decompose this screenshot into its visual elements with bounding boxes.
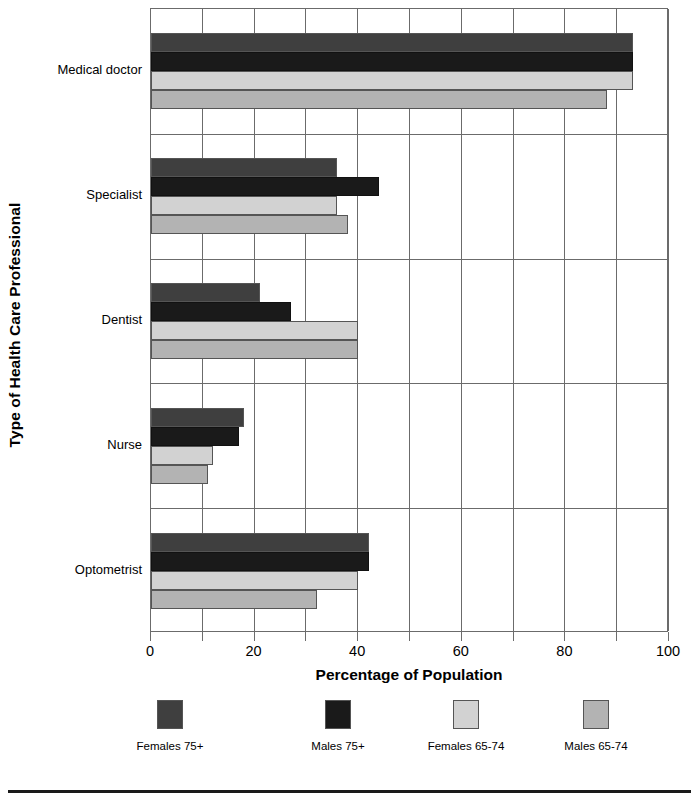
x-axis-tick [357,632,358,641]
legend-label: Females 65-74 [428,740,505,752]
bar [151,283,260,302]
y-axis-tick-label: Nurse [8,438,150,452]
legend-swatch [453,700,479,729]
bar [151,90,607,109]
x-axis-title: Percentage of Population [150,666,668,684]
bar-group [151,259,667,384]
bar [151,158,337,177]
legend-swatch [325,700,351,729]
bar [151,302,291,321]
bar [151,33,633,52]
x-axis-tick-label: 60 [453,643,469,659]
x-axis-tick [564,632,565,641]
bar [151,215,348,234]
legend-swatch [583,700,609,729]
x-axis-tick-label: 100 [656,643,680,659]
x-axis-tick [668,632,669,641]
chart-legend: Females 75+Males 75+Females 65-74Males 6… [0,700,697,780]
bar [151,571,358,590]
x-axis-tick [202,632,203,641]
bar [151,446,213,465]
bar [151,321,358,340]
legend-label: Males 75+ [311,740,364,752]
y-axis-tick-label: Specialist [8,188,150,202]
y-axis-tick-label: Dentist [8,313,150,327]
bar [151,465,208,484]
legend-label: Males 65-74 [564,740,627,752]
x-axis-tick [513,632,514,641]
legend-item: Females 75+ [157,700,183,729]
legend-item: Females 65-74 [453,700,479,729]
x-axis-tick [616,632,617,641]
bar [151,340,358,359]
x-axis-tick-label: 0 [146,643,154,659]
bar [151,71,633,90]
bar [151,590,317,609]
x-axis-tick [254,632,255,641]
bar-group [151,508,667,633]
legend-item: Males 75+ [325,700,351,729]
x-axis-tick-label: 80 [556,643,572,659]
bar [151,408,244,427]
plot-area [150,8,668,632]
gridline-vertical [668,9,669,631]
bar [151,533,369,552]
bar-group [151,9,667,134]
legend-item: Males 65-74 [583,700,609,729]
bar-group [151,134,667,259]
y-axis-tick-label: Optometrist [8,563,150,577]
x-axis-tick [461,632,462,641]
bar [151,552,369,571]
bar-group [151,383,667,508]
bar [151,177,379,196]
footer-divider [8,790,691,793]
y-axis-tick-label: Medical doctor [8,63,150,77]
bar [151,427,239,446]
legend-swatch [157,700,183,729]
x-axis-tick [409,632,410,641]
legend-label: Females 75+ [137,740,204,752]
bar [151,52,633,71]
x-axis-tick [305,632,306,641]
bar-chart-figure: Type of Health Care Professional Medical… [0,0,697,805]
x-axis-tick-label: 20 [246,643,262,659]
x-axis-tick [150,632,151,641]
x-axis-tick-labels: 020406080100 [150,643,669,663]
y-axis-tick-labels: Medical doctorSpecialistDentistNurseOpto… [0,0,150,805]
bar [151,196,337,215]
x-axis-tick-label: 40 [349,643,365,659]
